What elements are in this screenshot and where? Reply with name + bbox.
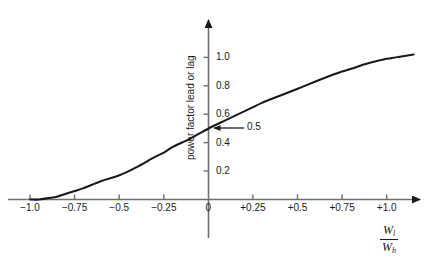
x-tick-label-neg05: −0.5 xyxy=(109,203,129,213)
x-tick-label-neg1: −1.0 xyxy=(20,203,40,213)
y-tick-label-06: 0.6 xyxy=(216,109,230,119)
x-axis-title: Wl Wh xyxy=(380,224,398,255)
x-tick-label-zero: 0 xyxy=(206,203,212,213)
x-axis-title-denominator: Wh xyxy=(380,240,398,255)
annotation-label-05: 0.5 xyxy=(247,122,261,132)
x-tick-label-neg025: −0.25 xyxy=(151,203,176,213)
x-tick-label-pos075: +0.75 xyxy=(329,203,354,213)
data-curve xyxy=(30,55,413,200)
x-tick-label-pos05: +0.5 xyxy=(288,203,308,213)
x-tick-label-pos025: +0.25 xyxy=(240,203,265,213)
x-tick-label-neg075: −0.75 xyxy=(62,203,87,213)
y-tick-label-08: 0.8 xyxy=(216,81,230,91)
y-tick-label-10: 1.0 xyxy=(216,52,230,62)
y-tick-label-04: 0.4 xyxy=(216,138,230,148)
x-axis-title-numerator: Wl xyxy=(380,224,398,240)
x-tick-label-pos1: +1.0 xyxy=(377,203,397,213)
y-axis-title: power factor lead or lag xyxy=(186,144,196,160)
chart-container: −1.0 −0.75 −0.5 −0.25 0 +0.25 +0.5 +0.75… xyxy=(0,0,439,273)
y-tick-label-02: 0.2 xyxy=(216,166,230,176)
